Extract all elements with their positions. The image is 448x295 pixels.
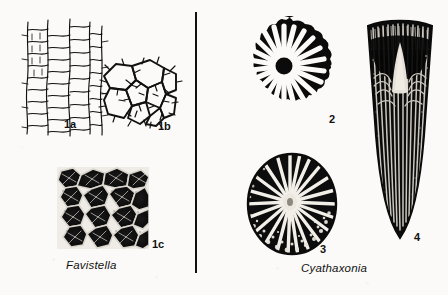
figure-plate: 1a bbox=[0, 0, 448, 295]
vertical-divider bbox=[195, 12, 197, 273]
figure-2 bbox=[228, 14, 340, 126]
figure-label-2: 2 bbox=[329, 113, 335, 125]
figure-4 bbox=[362, 16, 438, 244]
figure-1b bbox=[98, 56, 180, 130]
figure-label-1a: 1a bbox=[64, 118, 76, 130]
figure-1c bbox=[57, 167, 149, 249]
figure-3 bbox=[244, 152, 340, 256]
figure-label-1b: 1b bbox=[158, 120, 170, 132]
figure-label-4: 4 bbox=[414, 231, 420, 243]
figure-label-1c: 1c bbox=[152, 238, 164, 250]
caption-favistella: Favistella bbox=[66, 259, 117, 271]
caption-cyathaxonia: Cyathaxonia bbox=[301, 262, 367, 274]
figure-label-3: 3 bbox=[320, 243, 326, 255]
